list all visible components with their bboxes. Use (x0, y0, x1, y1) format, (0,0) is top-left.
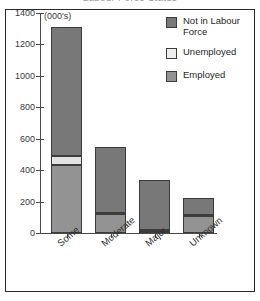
y-axis-tick-label: 1200 (15, 39, 35, 49)
bar-segment-emp (51, 165, 82, 233)
legend-item-unemployed: Unemployed (166, 47, 254, 60)
bar-some (51, 27, 82, 233)
y-axis-tick-label: 0 (30, 228, 35, 238)
legend-label-unemployed: Unemployed (183, 47, 254, 58)
y-axis-tick-label: 1000 (15, 71, 35, 81)
y-axis-tick-label: 200 (20, 197, 35, 207)
bar-segment-unemp (51, 156, 82, 165)
bar-segment-nilf (183, 198, 214, 215)
legend-label-not-in-labour-force: Not in Labour Force (183, 16, 254, 37)
y-axis-tick-label: 1400 (15, 8, 35, 18)
legend-item-employed: Employed (166, 70, 254, 83)
legend-swatch-not-in-labour-force (166, 17, 177, 28)
bar-major (139, 180, 170, 233)
chart-legend: Not in Labour Force Unemployed Employed (166, 16, 254, 93)
y-axis-tick-label: 600 (20, 134, 35, 144)
bar-segment-nilf (51, 27, 82, 156)
legend-swatch-employed (166, 71, 177, 82)
chart-title-strip: Labour Force Status (0, 0, 260, 8)
legend-label-employed: Employed (183, 70, 254, 81)
bar-segment-nilf (139, 180, 170, 231)
chart-title: Labour Force Status (0, 0, 260, 3)
chart-figure: Labour Force Status (000's) 020040060080… (0, 0, 260, 301)
legend-swatch-unemployed (166, 48, 177, 59)
y-axis-tick-label: 400 (20, 165, 35, 175)
bar-segment-nilf (95, 147, 126, 213)
legend-item-nilf: Not in Labour Force (166, 16, 254, 37)
y-axis-tick-label: 800 (20, 102, 35, 112)
